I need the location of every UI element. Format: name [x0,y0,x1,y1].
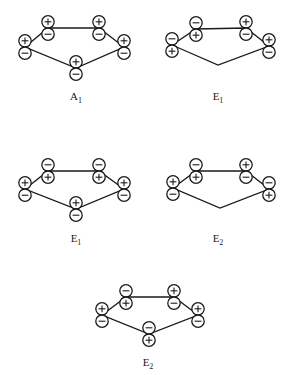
orbital-diagram-e2a [167,159,275,208]
orbital-diagram-e1b [19,159,130,222]
label-main: E [213,232,220,244]
p-orbital [96,303,108,328]
label-subscript: 1 [78,96,82,105]
ring-bonds [172,28,269,65]
label-subscript: 1 [219,96,223,105]
p-orbital [19,177,31,202]
label-subscript: 2 [149,362,153,371]
label-subscript: 1 [77,238,81,247]
orbital-diagram-figure [0,0,295,375]
label-subscript: 2 [219,238,223,247]
p-orbital [167,176,179,201]
symmetry-label: E1 [71,232,82,247]
p-orbital [118,35,130,60]
label-main: E [71,232,78,244]
orbital-diagram-a1 [19,16,130,81]
label-main: E [213,90,220,102]
ring-bonds [173,171,269,208]
orbital-diagram-e2b [96,285,204,347]
p-orbital [263,177,275,202]
p-orbital [19,35,31,60]
label-main: E [143,356,150,368]
p-orbital [143,322,155,347]
p-orbital [70,56,82,81]
orbital-diagram-e1a [166,16,275,65]
symmetry-label: E2 [143,356,154,371]
p-orbital [118,177,130,202]
label-main: A [70,90,78,102]
p-orbital [166,33,178,58]
p-orbital [192,303,204,328]
p-orbital [70,197,82,222]
symmetry-label: E2 [213,232,224,247]
p-orbital [263,34,275,59]
symmetry-label: E1 [213,90,224,105]
symmetry-label: A1 [70,90,82,105]
